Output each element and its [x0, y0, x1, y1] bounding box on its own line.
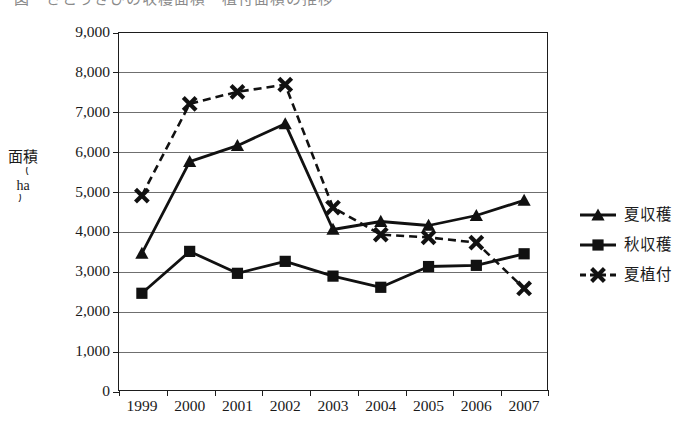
- x-axis-tick-label: 2006: [453, 398, 499, 414]
- x-axis-tick-mark: [453, 390, 454, 396]
- y-axis-unit-paren-open: （: [8, 167, 38, 175]
- y-axis-tick-label: 7,000: [75, 104, 110, 120]
- y-axis-unit-paren-close: ）: [8, 194, 38, 202]
- x-axis-tick-mark: [501, 390, 502, 396]
- x-axis-tick-mark: [406, 390, 407, 396]
- y-axis-tick-label: 4,000: [75, 223, 110, 239]
- gridline: [119, 152, 547, 153]
- x-axis-tick-label: 2005: [406, 398, 452, 414]
- x-axis-tick-label: 2007: [501, 398, 547, 414]
- y-axis-title-text: 面積: [8, 149, 38, 165]
- x-axis-tick-mark: [167, 390, 168, 396]
- y-axis-tick-mark: [113, 312, 119, 313]
- y-axis-tick-label: 5,000: [75, 184, 110, 200]
- y-axis-tick-label: 2,000: [75, 303, 110, 319]
- gridline: [119, 72, 547, 73]
- legend-item-1[interactable]: 夏収穫: [578, 200, 696, 230]
- legend-item-3[interactable]: 夏植付: [578, 260, 696, 290]
- y-axis-tick-label: 8,000: [75, 64, 110, 80]
- x-axis-tick-mark: [358, 390, 359, 396]
- y-axis-tick-mark: [113, 272, 119, 273]
- x-axis-tick-label: 1999: [119, 398, 165, 414]
- y-axis-tick-label: 6,000: [75, 144, 110, 160]
- x-axis-tick-label: 2003: [310, 398, 356, 414]
- x-axis-tick-mark: [310, 390, 311, 396]
- gridline: [119, 312, 547, 313]
- x-axis-tick-label: 2000: [167, 398, 213, 414]
- legend-sample-triangle-marker-icon: [578, 204, 618, 226]
- y-axis-tick-mark: [113, 192, 119, 193]
- legend-label: 夏植付: [624, 266, 672, 284]
- y-axis-unit-text: ha: [8, 177, 38, 194]
- y-axis-tick-mark: [113, 72, 119, 73]
- y-axis-tick-mark: [113, 352, 119, 353]
- x-axis-tick-mark: [119, 390, 120, 396]
- y-axis-tick-label: 3,000: [75, 263, 110, 279]
- gridline: [119, 232, 547, 233]
- y-axis-tick-mark: [113, 33, 119, 34]
- gridline: [119, 112, 547, 113]
- legend-label: 夏収穫: [624, 206, 672, 224]
- plot-area: [118, 32, 548, 391]
- y-axis-tick-label: 1,000: [75, 343, 110, 359]
- x-axis-tick-mark: [215, 390, 216, 396]
- y-axis-tick-label: 0: [102, 383, 110, 399]
- y-axis-tick-mark: [113, 152, 119, 153]
- y-axis-title: 面積 （ ha ）: [8, 148, 38, 202]
- y-axis-tick-mark: [113, 112, 119, 113]
- legend-sample-square-marker-icon: [578, 234, 618, 256]
- x-axis-tick-mark: [262, 390, 263, 396]
- gridline: [119, 192, 547, 193]
- line-chart: 面積 （ ha ） 9,0008,0007,0006,0005,0004,000…: [0, 0, 698, 443]
- y-axis-tick-label: 9,000: [75, 24, 110, 40]
- y-axis-tick-mark: [113, 232, 119, 233]
- square-marker-icon: [592, 239, 603, 250]
- x-axis-tick-label: 2004: [358, 398, 404, 414]
- gridline: [119, 352, 547, 353]
- gridline: [119, 272, 547, 273]
- legend-label: 秋収穫: [624, 236, 672, 254]
- x-axis-tick-mark: [548, 390, 549, 396]
- y-axis-tick-labels: 9,0008,0007,0006,0005,0004,0003,0002,000…: [42, 0, 110, 443]
- x-axis-tick-label: 2002: [262, 398, 308, 414]
- chart-legend: 夏収穫秋収穫夏植付: [578, 200, 696, 290]
- legend-sample-cross-marker-icon: [578, 264, 618, 286]
- x-axis-tick-label: 2001: [214, 398, 260, 414]
- legend-item-2[interactable]: 秋収穫: [578, 230, 696, 260]
